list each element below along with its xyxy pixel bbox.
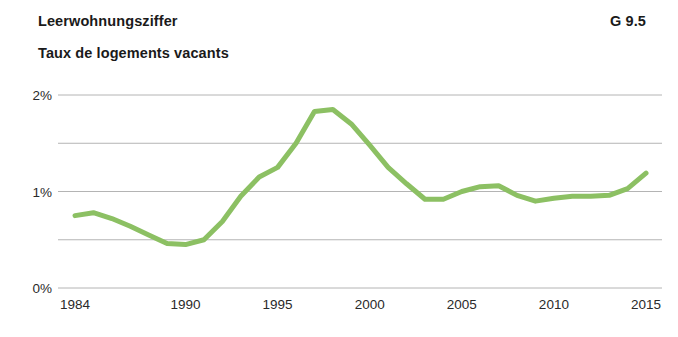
- x-axis-tick-label: 1990: [170, 297, 200, 312]
- x-axis-tick-label: 2015: [631, 297, 661, 312]
- x-axis-tick-label: 2000: [355, 297, 385, 312]
- x-axis-tick-label: 1984: [60, 297, 90, 312]
- chart-figure: Leerwohnungsziffer G 9.5 Taux de logemen…: [0, 0, 678, 337]
- y-axis-tick-label: 0%: [0, 281, 52, 296]
- x-axis-tick-label: 1995: [263, 297, 293, 312]
- gridlines-group: [58, 95, 662, 288]
- x-axis-tick-label: 2010: [539, 297, 569, 312]
- line-chart-svg: [0, 0, 678, 337]
- vacancy-rate-line: [75, 109, 646, 244]
- y-axis-tick-label: 1%: [0, 184, 52, 199]
- chart-plot-area: 0%1%2% 1984199019952000200520102015: [0, 0, 678, 337]
- x-axis-tick-label: 2005: [447, 297, 477, 312]
- y-axis-tick-label: 2%: [0, 88, 52, 103]
